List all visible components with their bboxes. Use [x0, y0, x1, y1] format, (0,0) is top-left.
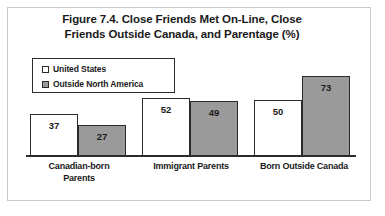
bar-outside-north-america[interactable]: 49 — [190, 101, 238, 156]
chart-title: Figure 7.4. Close Friends Met On-Line, C… — [18, 12, 346, 42]
bar-group-immigrant-parents: 52 49 — [138, 66, 244, 156]
category-label-line-2: Parents — [26, 172, 132, 184]
bar-united-states[interactable]: 52 — [142, 98, 190, 156]
chart-title-line-2: Friends Outside Canada, and Parentage (%… — [18, 27, 346, 42]
bar-united-states[interactable]: 37 — [30, 114, 78, 156]
plot-area: 37 27 52 49 50 73 — [26, 66, 356, 156]
bar-group-born-outside-canada: 50 73 — [250, 66, 356, 156]
bar-outside-north-america[interactable]: 27 — [78, 125, 126, 156]
category-label-line-1: Immigrant Parents — [138, 160, 244, 172]
bar-value-label: 27 — [79, 131, 125, 142]
bar-value-label: 37 — [31, 120, 77, 131]
bar-value-label: 73 — [303, 82, 349, 93]
figure-container: Figure 7.4. Close Friends Met On-Line, C… — [0, 0, 385, 216]
bar-outside-north-america[interactable]: 73 — [302, 76, 350, 156]
category-label-canadian-born-parents: Canadian-born Parents — [26, 160, 132, 184]
bar-value-label: 52 — [143, 104, 189, 115]
chart-title-line-1: Figure 7.4. Close Friends Met On-Line, C… — [18, 12, 346, 27]
category-label-line-1: Born Outside Canada — [249, 160, 359, 172]
category-label-immigrant-parents: Immigrant Parents — [138, 160, 244, 172]
bar-value-label: 49 — [191, 107, 237, 118]
bar-united-states[interactable]: 50 — [254, 100, 302, 156]
bar-group-canadian-born-parents: 37 27 — [26, 66, 132, 156]
bar-value-label: 50 — [255, 106, 301, 117]
category-label-line-1: Canadian-born — [26, 160, 132, 172]
x-axis-line — [26, 155, 356, 157]
category-label-born-outside-canada: Born Outside Canada — [249, 160, 359, 172]
